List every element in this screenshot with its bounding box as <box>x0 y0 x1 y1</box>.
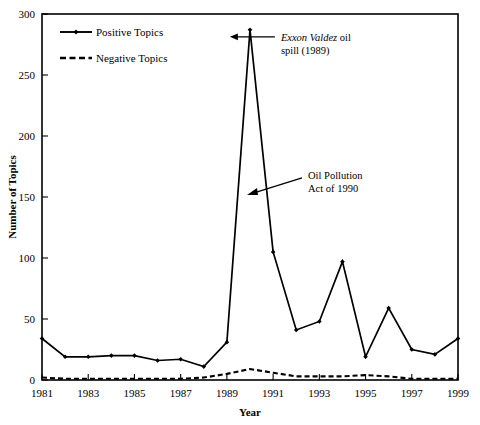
annotation-text-oil-pollution-act: Oil PollutionAct of 1990 <box>308 170 363 194</box>
y-tick-label: 200 <box>19 130 36 142</box>
x-axis-title: Year <box>239 406 261 418</box>
x-tick-label: 1995 <box>355 387 378 399</box>
data-point-marker <box>132 353 137 358</box>
chart-legend: Positive TopicsNegative Topics <box>60 26 167 64</box>
data-point-marker <box>317 319 322 324</box>
annotation-arrow-oil-pollution-act <box>254 178 302 193</box>
series-line-positive-topics <box>42 30 458 367</box>
legend-label: Positive Topics <box>96 26 163 38</box>
x-tick-label: 1997 <box>401 387 424 399</box>
x-tick-label: 1987 <box>170 387 193 399</box>
legend-swatch-marker <box>73 29 78 34</box>
chart-canvas: 050100150200250300 198119831985198719891… <box>0 0 480 425</box>
chart-figure: 050100150200250300 198119831985198719891… <box>0 0 480 425</box>
data-point-marker <box>109 353 114 358</box>
annotation-arrowhead-oil-pollution-act <box>247 188 258 195</box>
y-axis-title: Number of Topics <box>6 155 18 239</box>
annotation-arrowhead-exxon-valdez <box>230 33 238 40</box>
x-tick-label: 1991 <box>262 387 284 399</box>
legend-label: Negative Topics <box>96 52 167 64</box>
data-series-layer <box>40 28 461 379</box>
x-tick-label: 1999 <box>447 387 470 399</box>
y-tick-label: 300 <box>19 8 36 20</box>
x-tick-label: 1985 <box>123 387 146 399</box>
data-point-marker <box>155 358 160 363</box>
x-tick-label: 1989 <box>216 387 239 399</box>
data-point-marker <box>248 28 253 33</box>
data-point-marker <box>340 259 345 264</box>
y-tick-label: 100 <box>19 252 36 264</box>
chart-annotations: Exxon Valdez oilspill (1989)Oil Pollutio… <box>230 32 363 195</box>
data-point-marker <box>178 357 183 362</box>
y-tick-label: 250 <box>19 69 36 81</box>
y-axis-ticks: 050100150200250300 <box>19 8 49 386</box>
plot-frame <box>42 14 458 380</box>
x-tick-label: 1981 <box>31 387 53 399</box>
data-point-marker <box>294 328 299 333</box>
x-tick-label: 1983 <box>77 387 100 399</box>
y-tick-label: 0 <box>30 374 36 386</box>
annotation-text-exxon-valdez: Exxon Valdez oilspill (1989) <box>280 32 351 57</box>
series-line-negative-topics <box>42 369 458 379</box>
data-point-marker <box>271 250 276 255</box>
data-point-marker <box>86 355 91 360</box>
y-tick-label: 50 <box>24 313 36 325</box>
x-tick-label: 1993 <box>308 387 331 399</box>
y-tick-label: 150 <box>19 191 36 203</box>
